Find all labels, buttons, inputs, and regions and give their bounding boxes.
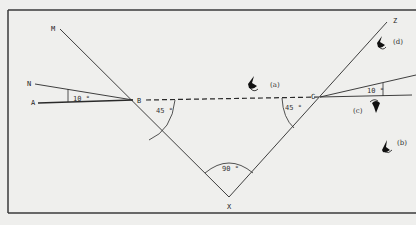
label-X: X xyxy=(227,203,232,211)
caption-b: (b) xyxy=(397,139,407,147)
caption-c: (c) xyxy=(353,107,363,115)
reflection-diagram: M N A B C Z X 10 ° 45 ° 90 ° 45 ° 10 ° (… xyxy=(0,0,416,225)
angle-label-left-45: 45 ° xyxy=(156,107,173,115)
line-XZ xyxy=(229,22,387,197)
label-M: M xyxy=(51,25,55,33)
label-C: C xyxy=(311,93,315,101)
label-N: N xyxy=(27,80,31,88)
fly-icon-b xyxy=(382,140,392,153)
fly-icon-d xyxy=(377,36,386,49)
angle-arc-left-45 xyxy=(149,100,175,140)
angle-label-left-10: 10 ° xyxy=(73,95,90,103)
fly-icon-c xyxy=(370,100,380,113)
angle-label-right-45: 45 ° xyxy=(285,104,302,112)
line-C-right xyxy=(320,95,412,97)
caption-a: (a) xyxy=(270,81,280,89)
caption-d: (d) xyxy=(393,38,403,46)
label-B: B xyxy=(137,97,141,105)
angle-label-90: 90 ° xyxy=(222,165,239,173)
line-MB xyxy=(60,29,229,197)
angle-label-right-10: 10 ° xyxy=(367,87,384,95)
angle-arc-right-45 xyxy=(282,98,294,128)
label-Z: Z xyxy=(393,17,397,25)
label-A: A xyxy=(31,99,36,107)
fly-icon-a xyxy=(248,76,258,91)
line-BC-dashed xyxy=(146,97,320,100)
